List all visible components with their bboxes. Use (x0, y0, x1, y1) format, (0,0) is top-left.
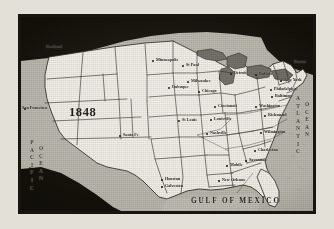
pacific-ocean-label-line2: OCEAN (38, 145, 44, 183)
city-label: Louisville (214, 117, 232, 121)
city-label: Minneapolis (156, 58, 178, 62)
city-label: New Orleans (222, 178, 245, 182)
city-label: Cincinnati (218, 104, 237, 108)
city-label: Chicago (202, 89, 217, 93)
gulf-of-mexico-label: GULF OF MEXICO (191, 197, 281, 205)
city-label: Santa Fe (123, 133, 139, 137)
city-label: Mobile (230, 163, 243, 167)
city-label: Baltimore (275, 94, 293, 98)
city-label: St Paul (186, 63, 199, 67)
map-canvas: 1848 PACIFIC OCEAN ATLANTIC OCEAN GULF O… (21, 17, 313, 211)
city-label: Houston (165, 177, 180, 181)
city-label: Richmond (268, 113, 287, 117)
city-label: Charleston (258, 148, 278, 152)
city-label: Dubuque (172, 85, 189, 89)
map-page: 1848 PACIFIC OCEAN ATLANTIC OCEAN GULF O… (0, 0, 334, 229)
city-label: San Francisco (22, 106, 47, 110)
city-label: Galveston (165, 184, 183, 188)
map-year-1848: 1848 (69, 105, 96, 120)
city-label: New York (284, 78, 302, 82)
atlantic-ocean-label-line2: OCEAN (304, 101, 310, 139)
city-label: Wilmington (264, 130, 285, 134)
city-label: Buffalo (259, 72, 272, 76)
atlantic-ocean-label: ATLANTIC (295, 95, 301, 156)
city-label: Detroit (234, 71, 247, 75)
city-label: Milwaukee (191, 79, 211, 83)
city-label: Portland (46, 45, 62, 49)
pacific-ocean-label: PACIFIC (29, 139, 35, 192)
city-label: Savannah (249, 158, 267, 162)
city-label: Philadelphia (274, 87, 297, 91)
city-label: Nashville (210, 131, 227, 135)
city-label: St Louis (182, 118, 197, 122)
map-frame: 1848 PACIFIC OCEAN ATLANTIC OCEAN GULF O… (18, 14, 316, 214)
city-label: Washington (259, 104, 280, 108)
city-label: Boston (294, 60, 306, 64)
